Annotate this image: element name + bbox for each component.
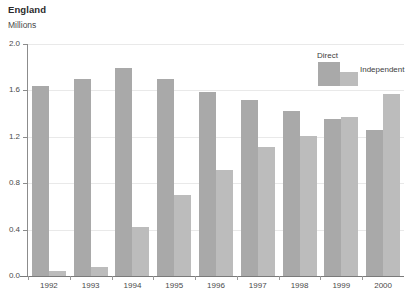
bar-independent-1997 [258,147,275,276]
bar-direct-1994 [115,68,132,276]
x-tick-label-1999: 1999 [320,282,362,290]
bar-independent-1993 [91,267,108,276]
x-tick-label-2000: 2000 [362,282,404,290]
bar-direct-1999 [324,119,341,276]
y-tick-label: 2.0 [0,40,20,48]
bar-independent-2000 [383,94,400,276]
bar-direct-1995 [157,79,174,276]
chart-title: England [8,4,46,15]
bar-independent-1995 [174,195,191,276]
x-tick-mark [362,276,363,280]
bar-direct-1997 [241,100,258,276]
legend-label-direct: Direct [317,52,338,60]
x-tick-label-1998: 1998 [279,282,321,290]
y-tick-label: 0.8 [0,179,20,187]
y-tick-label: 1.2 [0,133,20,141]
bar-independent-1992 [49,271,66,276]
chart-subtitle: Millions [8,20,36,30]
bar-independent-1998 [300,136,317,276]
x-tick-mark [28,276,29,280]
bar-independent-1996 [216,170,233,276]
x-tick-mark [112,276,113,280]
bar-direct-1998 [283,111,300,276]
x-tick-label-1996: 1996 [195,282,237,290]
x-tick-mark [153,276,154,280]
y-tick-label: 1.6 [0,86,20,94]
legend-swatch-independent [340,72,358,86]
bar-direct-1993 [74,79,91,276]
bar-direct-1992 [32,86,49,276]
x-tick-mark [237,276,238,280]
x-tick-mark [195,276,196,280]
x-tick-label-1992: 1992 [28,282,70,290]
x-tick-label-1997: 1997 [237,282,279,290]
y-tick-label: 0.0 [0,272,20,280]
bar-independent-1994 [132,227,149,276]
x-axis-line [20,276,404,277]
bar-independent-1999 [341,117,358,276]
bar-direct-2000 [366,130,383,276]
bar-direct-1996 [199,92,216,276]
x-tick-mark [279,276,280,280]
x-tick-label-1994: 1994 [112,282,154,290]
x-tick-mark [320,276,321,280]
x-tick-mark [70,276,71,280]
chart-legend: Direct Independent [310,50,404,92]
legend-label-independent: Independent [360,66,405,74]
x-tick-label-1995: 1995 [153,282,195,290]
legend-swatch-direct [318,62,340,86]
x-tick-label-1993: 1993 [70,282,112,290]
y-tick-label: 0.4 [0,226,20,234]
